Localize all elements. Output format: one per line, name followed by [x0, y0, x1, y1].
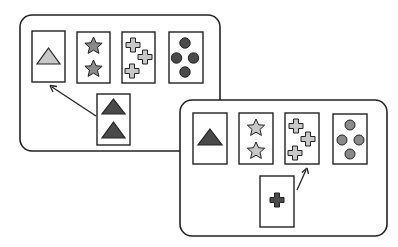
key-card-two-stars — [77, 32, 110, 83]
key-card-two-stars — [239, 113, 273, 164]
key-card-four-circles — [333, 114, 367, 164]
panel-2 — [180, 100, 387, 236]
circle-icon — [337, 135, 347, 145]
circle-icon — [188, 53, 198, 63]
key-card-three-crosses — [122, 32, 155, 83]
response-card-one-cross — [260, 176, 294, 227]
circle-icon — [180, 38, 190, 48]
circle-icon — [345, 149, 355, 159]
circle-icon — [345, 120, 355, 130]
circle-icon — [171, 53, 181, 63]
card-sorting-diagram — [0, 0, 398, 247]
key-card-four-circles — [169, 32, 203, 83]
key-card-one-triangle — [193, 113, 227, 164]
response-card-two-triangles — [97, 94, 130, 145]
circle-icon — [354, 135, 364, 145]
key-card-three-crosses — [285, 113, 319, 164]
circle-icon — [180, 67, 190, 77]
key-card-one-triangle — [32, 31, 65, 82]
